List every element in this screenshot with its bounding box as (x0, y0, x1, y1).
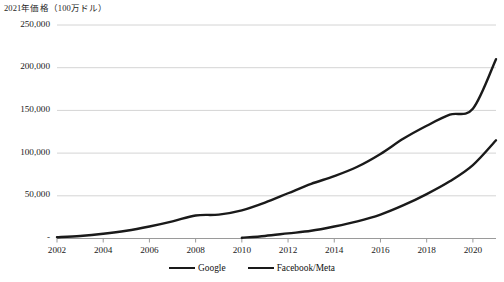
chart-plot-area (0, 0, 504, 282)
y-axis-tick-label: 250,000 (2, 19, 50, 29)
x-axis-tick-label: 2016 (360, 245, 400, 255)
y-axis-tick-label: 150,000 (2, 104, 50, 114)
series-line-google (57, 59, 496, 237)
x-axis-tick-label: 2014 (314, 245, 354, 255)
x-axis-tick-label: 2020 (453, 245, 493, 255)
x-axis-tick-label: 2004 (83, 245, 123, 255)
chart-container: 2021年価格（100万ドル） -50,000100,000150,000200… (0, 0, 504, 282)
y-axis-tick-label: - (2, 232, 50, 242)
gridline-group (57, 25, 496, 196)
x-axis-tick-label: 2012 (268, 245, 308, 255)
y-axis-tick-label: 200,000 (2, 61, 50, 71)
xtick-mark-group (57, 239, 473, 243)
x-axis-tick-label: 2018 (407, 245, 447, 255)
legend-item-google[interactable]: Google (169, 263, 226, 273)
legend-label-facebook-meta: Facebook/Meta (277, 263, 335, 273)
x-axis-tick-label: 2008 (176, 245, 216, 255)
x-axis-tick-label: 2006 (129, 245, 169, 255)
y-axis-tick-label: 100,000 (2, 147, 50, 157)
y-axis-tick-label: 50,000 (2, 189, 50, 199)
x-axis-tick-label: 2010 (222, 245, 262, 255)
legend-line-icon (169, 267, 195, 270)
legend-item-facebook-meta[interactable]: Facebook/Meta (248, 263, 335, 273)
series-group (57, 59, 496, 238)
series-line-facebook-meta (242, 140, 496, 238)
chart-legend: Google Facebook/Meta (0, 263, 504, 273)
x-axis-tick-label: 2002 (37, 245, 77, 255)
legend-line-icon (248, 267, 274, 270)
legend-label-google: Google (198, 263, 226, 273)
